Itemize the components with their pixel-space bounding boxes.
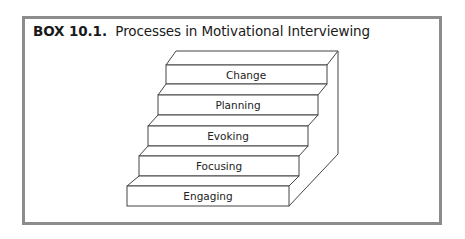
step-label-focusing: Focusing — [196, 160, 242, 172]
step-label-evoking: Evoking — [207, 130, 249, 142]
staircase-diagram: Change Planning Evoking Focusing Engagin… — [0, 0, 465, 239]
step-label-planning: Planning — [215, 99, 260, 111]
step-label-change: Change — [226, 69, 266, 81]
step-label-engaging: Engaging — [183, 190, 232, 202]
